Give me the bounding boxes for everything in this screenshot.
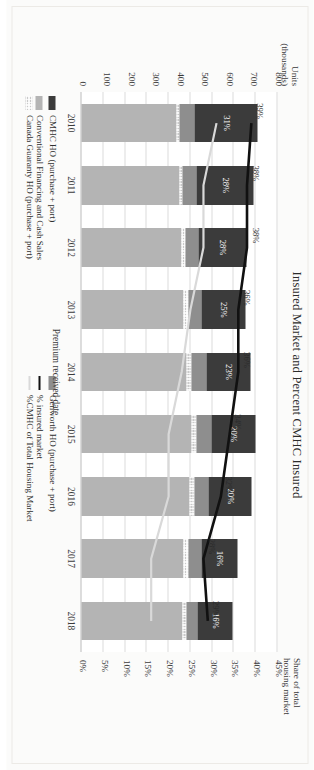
legend-item: % insured market — [35, 376, 45, 656]
x-axis-tick: 2013 — [66, 288, 76, 332]
line-point-label: 38% — [250, 219, 260, 253]
y-axis-right-tick: 30% — [208, 660, 218, 700]
legend-color-swatch — [36, 96, 43, 110]
y-axis-right-title-line1: Share of total — [291, 658, 301, 754]
y-axis-right-tick: 15% — [143, 660, 153, 700]
y-axis-left-tick: 100 — [102, 40, 112, 86]
line-point-label: 39% — [254, 94, 264, 128]
y-axis-right-tick: 35% — [230, 660, 240, 700]
x-axis-tick: 2010 — [66, 101, 76, 145]
y-axis-left-tick: 0 — [78, 40, 88, 86]
legend-line-swatch-dark — [39, 376, 41, 390]
y-axis-right-tick: 20% — [165, 660, 175, 700]
legend-item: Canada Guaranty HO (purchase + port) — [25, 96, 35, 376]
y-axis-left-tick: 600 — [225, 40, 235, 86]
x-axis-tick: 2015 — [66, 412, 76, 456]
y-axis-right-tick: 10% — [121, 660, 131, 700]
legend-item-label: Canada Guaranty HO (purchase + port) — [25, 115, 35, 259]
y-axis-right-tick: 25% — [186, 660, 196, 700]
legend-column-extra-right: %CMHC of Total Housing Market — [25, 376, 35, 656]
y-axis-left-tick: 700 — [249, 40, 259, 86]
legend-line-swatch-light — [29, 376, 31, 390]
y-axis-left-tick: 500 — [200, 40, 210, 86]
y-axis-left-tick: 400 — [176, 40, 186, 86]
y-axis-right-tick: 0% — [78, 660, 88, 700]
line-point-label: 34% — [233, 405, 243, 439]
chart-title: Insured Market and Percent CMHC Insured — [289, 0, 304, 770]
y-axis-left-tick: 200 — [127, 40, 137, 86]
y-axis-right-tick: 40% — [252, 660, 262, 700]
legend-item: Conventional Financing and Cash Sales — [35, 96, 45, 376]
legend-column-extra-left: Canada Guaranty HO (purchase + port) — [25, 96, 35, 376]
x-axis-tick: 2012 — [66, 226, 76, 270]
line-point-label: 28% — [206, 530, 216, 564]
line-point-label: 36% — [241, 281, 251, 315]
line-point-label: 32% — [224, 467, 234, 501]
legend-item: %CMHC of Total Housing Market — [25, 376, 35, 656]
y-axis-right-tick: 45% — [274, 660, 284, 700]
x-axis-tick: 2018 — [66, 599, 76, 643]
x-axis-tick: 2016 — [66, 474, 76, 518]
y-axis-left-tick: 300 — [151, 40, 161, 86]
legend-item-label: % insured market — [35, 395, 45, 459]
x-axis-tick: 2014 — [66, 350, 76, 394]
y-axis-right-title: Share of total housing market — [281, 658, 302, 754]
x-axis-title: Premium received date — [51, 92, 61, 652]
y-axis-left-title-line1: Units — [289, 16, 299, 86]
x-axis-tick: 2017 — [66, 537, 76, 581]
legend-hatched-swatch — [26, 96, 33, 110]
chart-page: Insured Market and Percent CMHC Insured … — [7, 0, 308, 770]
legend-item-label: Conventional Financing and Cash Sales — [35, 115, 45, 260]
line-point-label: 38% — [250, 156, 260, 190]
y-axis-right-tick: 5% — [99, 660, 109, 700]
line-point-label: 29% — [211, 592, 221, 626]
line-point-label: 36% — [241, 343, 251, 377]
x-axis-tick: 2011 — [66, 163, 76, 207]
y-axis-left-tick: 800 — [274, 40, 284, 86]
legend-item-label: %CMHC of Total Housing Market — [25, 395, 35, 522]
